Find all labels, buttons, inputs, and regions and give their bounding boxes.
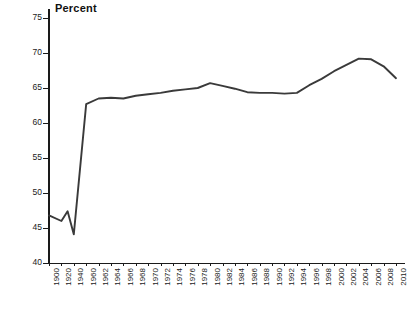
data-series-line bbox=[49, 59, 396, 235]
